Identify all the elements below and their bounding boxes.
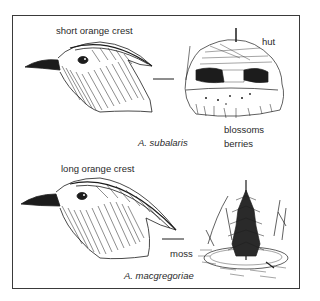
bower-label-moss: moss xyxy=(170,249,193,259)
species-label-macgregoriae: A. macgregoriae xyxy=(124,271,194,281)
bower-label-berries: berries xyxy=(224,139,253,149)
bower-label-hut: hut xyxy=(262,37,275,47)
bower-label-blossoms: blossoms xyxy=(224,125,264,135)
bird-head-short-crest xyxy=(25,42,152,112)
crest-label-short: short orange crest xyxy=(56,26,133,36)
maypole-bower-drawing xyxy=(198,180,288,278)
bird-head-long-crest xyxy=(21,178,176,259)
crest-label-long: long orange crest xyxy=(61,164,134,174)
species-label-subalaris: A. subalaris xyxy=(138,138,188,148)
